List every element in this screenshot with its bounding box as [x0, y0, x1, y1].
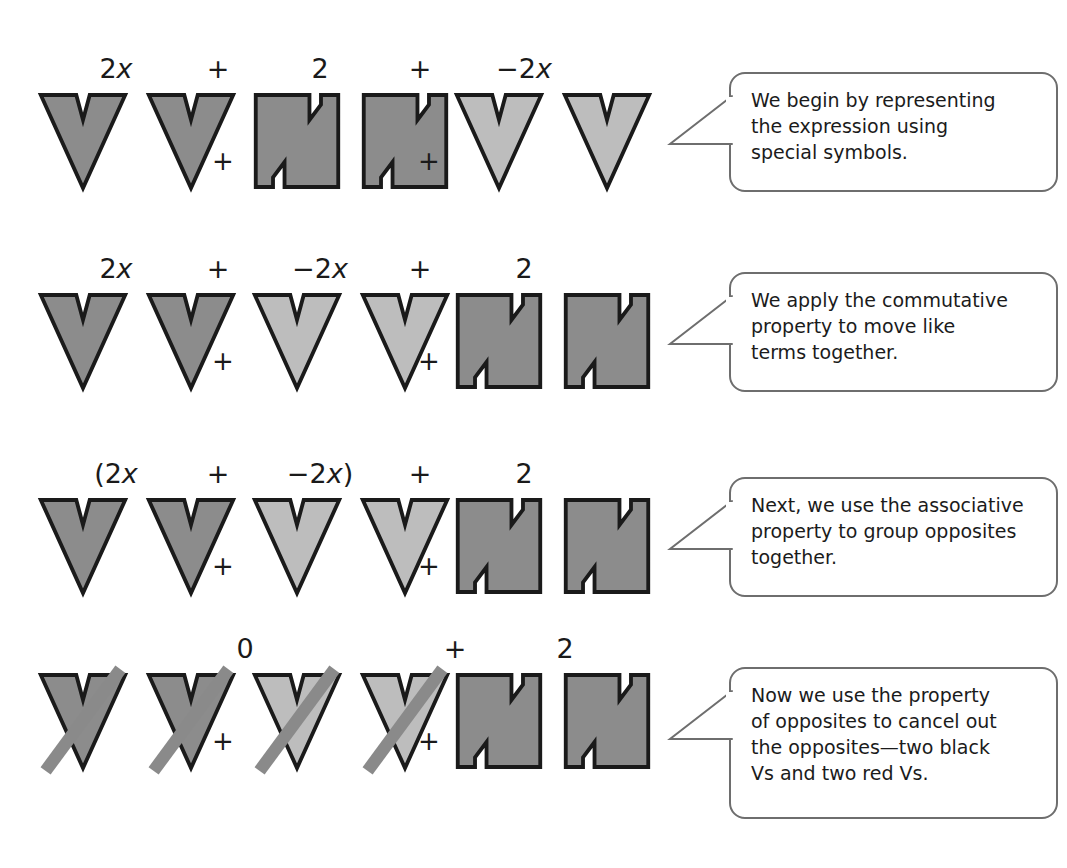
expression-term-label: −2x: [464, 52, 584, 86]
v-symbol-icon: [36, 286, 130, 400]
v-symbol-icon: [358, 491, 452, 605]
callout-body: Next, we use the associative property to…: [729, 477, 1058, 597]
expression-term-label: 0: [185, 632, 305, 666]
shape-plus-operator: +: [212, 348, 234, 374]
n-symbol-icon: [452, 286, 546, 400]
symbol-shapes: ++: [0, 286, 620, 398]
expression-term-label: 2: [505, 632, 625, 666]
shape-plus-operator: +: [418, 148, 440, 174]
symbol-shapes: ++: [0, 86, 620, 198]
v-symbol-icon: [36, 491, 130, 605]
callout-tail: [668, 499, 734, 561]
callout-bubble: We apply the commutative property to mov…: [668, 272, 1058, 392]
n-symbol-icon: [560, 491, 654, 605]
diagram-page: Applying Properties 2x+2+−2x ++2x+−2x+2: [0, 0, 1067, 868]
expression-labels: (2x+−2x)+2: [0, 457, 620, 491]
shape-plus-operator: +: [418, 553, 440, 579]
callout-body: Now we use the property of opposites to …: [729, 667, 1058, 819]
expression-term-label: 2: [464, 252, 584, 286]
v-symbol-crossed-out-icon: [358, 666, 452, 780]
shape-plus-operator: +: [418, 728, 440, 754]
expression-labels: 2x+−2x+2: [0, 252, 620, 286]
expression-term-label: 2: [464, 457, 584, 491]
shape-plus-operator: +: [212, 148, 234, 174]
callout-bubble: We begin by representing the expression …: [668, 72, 1058, 192]
v-symbol-icon: [250, 491, 344, 605]
v-symbol-crossed-out-icon: [36, 666, 130, 780]
symbol-shapes: ++: [0, 666, 620, 778]
callout-tail: [668, 94, 734, 156]
n-symbol-icon: [452, 666, 546, 780]
v-symbol-icon: [250, 286, 344, 400]
shape-plus-operator: +: [212, 553, 234, 579]
callout-tail: [668, 294, 734, 356]
callout-text: Now we use the property of opposites to …: [751, 682, 1038, 786]
callout-text: Next, we use the associative property to…: [751, 492, 1038, 570]
callout-bubble: Next, we use the associative property to…: [668, 477, 1058, 597]
v-symbol-crossed-out-icon: [144, 666, 238, 780]
v-symbol-icon: [144, 286, 238, 400]
callout-tail: [668, 689, 734, 751]
shape-plus-operator: +: [418, 348, 440, 374]
label-plus: +: [360, 457, 480, 491]
n-symbol-icon: [560, 286, 654, 400]
v-symbol-icon: [144, 491, 238, 605]
label-plus: +: [360, 52, 480, 86]
shape-plus-operator: +: [212, 728, 234, 754]
label-plus: +: [360, 252, 480, 286]
label-plus: +: [395, 632, 515, 666]
n-symbol-icon: [560, 666, 654, 780]
callout-body: We apply the commutative property to mov…: [729, 272, 1058, 392]
n-symbol-icon: [358, 86, 452, 200]
callout-bubble: Now we use the property of opposites to …: [668, 667, 1058, 819]
symbol-shapes: ++: [0, 491, 620, 603]
callout-text: We begin by representing the expression …: [751, 87, 1038, 165]
expression-labels: 0+2: [0, 632, 620, 666]
v-symbol-icon: [560, 86, 654, 200]
v-symbol-icon: [144, 86, 238, 200]
v-symbol-icon: [358, 286, 452, 400]
callout-text: We apply the commutative property to mov…: [751, 287, 1038, 365]
n-symbol-icon: [250, 86, 344, 200]
n-symbol-icon: [452, 491, 546, 605]
v-symbol-icon: [36, 86, 130, 200]
v-symbol-crossed-out-icon: [250, 666, 344, 780]
callout-body: We begin by representing the expression …: [729, 72, 1058, 192]
expression-labels: 2x+2+−2x: [0, 52, 620, 86]
v-symbol-icon: [452, 86, 546, 200]
